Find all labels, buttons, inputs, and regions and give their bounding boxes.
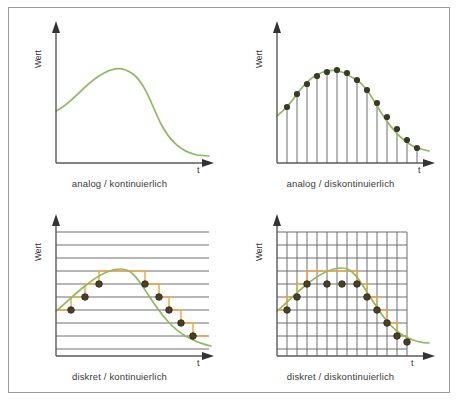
figure-page: Wert t analog / kontinuierlich [0, 0, 460, 402]
signal-curve [56, 269, 211, 346]
quantized-dot [384, 320, 391, 327]
y-axis-label: Wert [254, 243, 264, 261]
sample-dot [414, 145, 420, 151]
quantized-dot [354, 281, 361, 288]
sample-dots-group [284, 67, 420, 151]
sample-dot [394, 126, 400, 132]
y-axis-label: Wert [33, 243, 43, 261]
panel-caption: diskret / diskontinuierlich [230, 371, 451, 382]
quantized-dot [364, 294, 371, 301]
y-axis-arrow [273, 21, 281, 33]
quantized-dot [284, 307, 291, 314]
sample-dot [344, 70, 350, 76]
x-axis-label: t [411, 358, 414, 368]
quantized-dot [166, 307, 173, 314]
panel-diskret-kontinuierlich: Wert t diskret / kontinuierlich [9, 201, 230, 394]
x-axis-label: t [418, 165, 421, 175]
y-axis-arrow [52, 214, 60, 226]
sample-dot [314, 73, 320, 79]
grid-vertical-group [287, 232, 407, 356]
quantized-dot [190, 333, 197, 340]
quantized-dot [324, 281, 331, 288]
quantized-dot [394, 333, 401, 340]
quantized-dot [82, 294, 89, 301]
sample-dot [404, 137, 410, 143]
panel-caption: diskret / kontinuierlich [9, 371, 230, 382]
sample-dot [374, 100, 380, 106]
plot-analog-kontinuierlich [9, 8, 230, 178]
quantized-dot [374, 307, 381, 314]
quantized-dot [178, 320, 185, 327]
panel-caption: analog / kontinuierlich [9, 178, 230, 189]
sample-dot [324, 69, 330, 75]
y-axis-label: Wert [254, 50, 264, 68]
quantized-dot [304, 281, 311, 288]
y-axis-arrow [273, 214, 281, 226]
x-axis-arrow [423, 352, 435, 360]
x-axis-arrow [423, 159, 435, 167]
quantized-dot [404, 339, 411, 346]
quantized-dot [142, 281, 149, 288]
quantized-dot [68, 307, 75, 314]
plot-diskret-kontinuierlich [9, 201, 230, 371]
quantized-dot [339, 281, 346, 288]
panel-analog-kontinuierlich: Wert t analog / kontinuierlich [9, 8, 230, 201]
signal-curve [277, 268, 429, 343]
sample-dot [284, 104, 290, 110]
quantization-staircase [56, 271, 207, 336]
sample-dot [294, 91, 300, 97]
quantized-dot [294, 294, 301, 301]
signal-curve [56, 69, 209, 156]
x-axis-arrow [202, 352, 214, 360]
sample-dot [334, 67, 340, 73]
sample-dot [354, 77, 360, 83]
x-axis-arrow [202, 159, 214, 167]
plot-diskret-diskontinuierlich [230, 201, 451, 371]
sample-dot [304, 81, 310, 87]
x-axis-label: t [197, 358, 200, 368]
panel-diskret-diskontinuierlich: Wert t diskret / diskontinuierlich [230, 201, 451, 394]
quantized-dot [156, 294, 163, 301]
quantized-dot [96, 281, 103, 288]
y-axis-arrow [52, 21, 60, 33]
panel-caption: analog / diskontinuierlich [230, 178, 451, 189]
y-axis-label: Wert [33, 50, 43, 68]
sample-dot [364, 87, 370, 93]
plot-analog-diskontinuierlich [230, 8, 451, 178]
figure-border: Wert t analog / kontinuierlich [8, 7, 450, 393]
sample-dot [384, 114, 390, 120]
panel-analog-diskontinuierlich: Wert t analog / diskontinuierlich [230, 8, 451, 201]
x-axis-label: t [197, 165, 200, 175]
